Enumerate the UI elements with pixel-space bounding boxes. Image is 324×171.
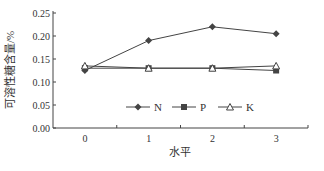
legend-label: K [246, 101, 254, 113]
y-axis-label: 可溶性糖含量/% [3, 31, 16, 109]
line-chart: 0.000.050.100.150.200.250123 NPK 可溶性糖含量/… [0, 0, 324, 171]
y-tick-label: 0.20 [33, 31, 51, 42]
legend-marker-icon [135, 104, 142, 111]
legend-item-K: K [218, 101, 254, 113]
legend-label: N [154, 101, 162, 113]
data-point-marker [145, 37, 152, 44]
y-tick-label: 0.05 [33, 100, 51, 111]
data-point-marker [273, 30, 280, 37]
legend-label: P [200, 101, 206, 113]
axes: 0.000.050.100.150.200.250123 [33, 8, 309, 145]
legend-marker-icon [181, 104, 187, 110]
series-group [81, 23, 279, 74]
x-tick-label: 2 [210, 133, 215, 144]
y-tick-label: 0.25 [33, 8, 51, 19]
x-tick-label: 3 [274, 133, 279, 144]
legend-item-N: N [126, 101, 162, 113]
y-tick-label: 0.15 [33, 54, 51, 65]
x-tick-label: 1 [146, 133, 151, 144]
y-tick-label: 0.00 [33, 123, 51, 134]
x-tick-label: 0 [82, 133, 87, 144]
legend-item-P: P [172, 101, 206, 113]
series-line [85, 27, 276, 71]
y-tick-label: 0.10 [33, 77, 51, 88]
legend: NPK [126, 101, 254, 113]
data-point-marker [209, 23, 216, 30]
x-axis-label: 水平 [169, 146, 191, 158]
